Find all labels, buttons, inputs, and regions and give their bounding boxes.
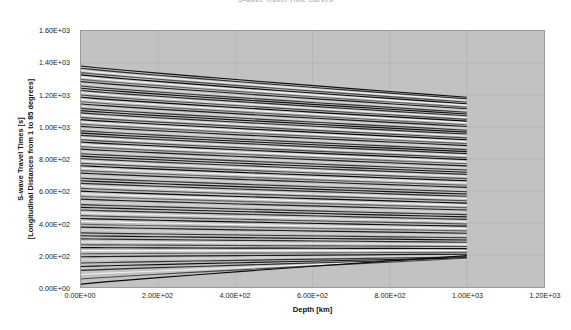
- travel-time-curve: [81, 245, 467, 247]
- y-axis-tick-label: 2.00E+02: [39, 251, 70, 260]
- x-axis-tick-label: 6.00E+02: [297, 291, 328, 300]
- x-axis-tick-label: 4.00E+02: [220, 291, 251, 300]
- x-axis-tick-label: 1.00E+03: [452, 291, 483, 300]
- travel-time-curve: [81, 252, 467, 253]
- chart-title: S-wave Travel Time Curves: [0, 0, 571, 4]
- x-axis-tick-label: 1.20E+03: [530, 291, 561, 300]
- y-axis-tick-label: 1.60E+03: [39, 26, 70, 35]
- x-axis-tick-label: 0.00E+00: [65, 291, 96, 300]
- x-axis-tick-label: 2.00E+02: [142, 291, 173, 300]
- travel-time-curve: [81, 156, 467, 172]
- chart-root: S-wave Travel Time Curves S-wave Travel …: [0, 0, 571, 330]
- y-axis-tick-label: 8.00E+02: [39, 155, 70, 164]
- plot-area: [80, 30, 545, 288]
- travel-time-curve: [81, 199, 467, 210]
- travel-time-curves: [81, 31, 544, 287]
- x-axis-title: Depth [km]: [80, 305, 545, 314]
- y-axis-tick-label: 1.00E+03: [39, 122, 70, 131]
- travel-time-curve: [81, 248, 467, 249]
- x-axis-tick-label: 8.00E+02: [375, 291, 406, 300]
- y-axis-tick-label: 1.20E+03: [39, 90, 70, 99]
- x-axis-tick-labels: 0.00E+002.00E+024.00E+026.00E+028.00E+02…: [80, 291, 545, 305]
- y-axis-tick-label: 1.40E+03: [39, 58, 70, 67]
- y-axis-tick-label: 4.00E+02: [39, 219, 70, 228]
- y-axis-tick-labels: 0.00E+002.00E+024.00E+026.00E+028.00E+02…: [0, 30, 76, 288]
- y-axis-tick-label: 6.00E+02: [39, 187, 70, 196]
